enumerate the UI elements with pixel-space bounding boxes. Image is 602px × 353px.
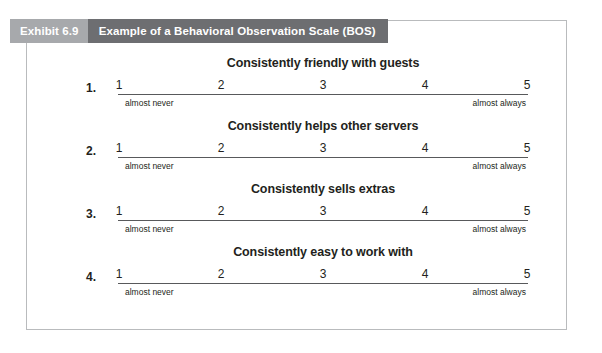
scale-point-group: 1 2 3 4 5 [118,141,528,157]
scale-point[interactable]: 3 [309,267,337,281]
scale-anchor-low: almost never [125,98,174,108]
scale-point[interactable]: 4 [411,141,439,155]
scale-point[interactable]: 3 [309,78,337,92]
exhibit-title: Example of a Behavioral Observation Scal… [88,19,388,43]
scale-item: Consistently helps other servers 2. 1 2 … [0,119,602,182]
exhibit-number-label: Exhibit 6.9 [10,19,88,43]
scale-line [118,220,528,221]
scale-anchor-high: almost always [473,98,526,108]
scale-point[interactable]: 2 [207,78,235,92]
scale-point[interactable]: 1 [105,267,133,281]
scale-point-group: 1 2 3 4 5 [118,78,528,94]
scale-anchors: almost never almost always [118,161,528,171]
scale-point[interactable]: 5 [513,267,541,281]
scale-anchor-low: almost never [125,161,174,171]
scale-row: 1 2 3 4 5 almost never almost always [118,141,528,171]
scale-item: Consistently sells extras 3. 1 2 3 4 5 a… [0,182,602,245]
scale-anchor-high: almost always [473,224,526,234]
scale-line [118,94,528,95]
scale-item-heading: Consistently friendly with guests [118,56,528,70]
scale-point-group: 1 2 3 4 5 [118,267,528,283]
scale-item-heading: Consistently sells extras [118,182,528,196]
scale-point[interactable]: 1 [105,78,133,92]
scale-point[interactable]: 5 [513,204,541,218]
scale-row: 1 2 3 4 5 almost never almost always [118,78,528,108]
scale-item-list: Consistently friendly with guests 1. 1 2… [0,56,602,308]
scale-item: Consistently friendly with guests 1. 1 2… [0,56,602,119]
scale-row: 1 2 3 4 5 almost never almost always [118,267,528,297]
scale-point[interactable]: 3 [309,141,337,155]
scale-item-number: 1. [72,81,96,95]
scale-line [118,157,528,158]
scale-anchor-high: almost always [473,161,526,171]
scale-anchor-low: almost never [125,287,174,297]
scale-item-heading: Consistently easy to work with [118,245,528,259]
scale-item-number: 4. [72,270,96,284]
scale-point[interactable]: 1 [105,204,133,218]
scale-item-heading: Consistently helps other servers [118,119,528,133]
scale-point-group: 1 2 3 4 5 [118,204,528,220]
scale-anchor-high: almost always [473,287,526,297]
scale-item: Consistently easy to work with 4. 1 2 3 … [0,245,602,308]
scale-point[interactable]: 4 [411,78,439,92]
scale-point[interactable]: 2 [207,204,235,218]
scale-point[interactable]: 4 [411,267,439,281]
scale-anchors: almost never almost always [118,287,528,297]
scale-row: 1 2 3 4 5 almost never almost always [118,204,528,234]
exhibit-header: Exhibit 6.9 Example of a Behavioral Obse… [10,19,388,43]
scale-anchor-low: almost never [125,224,174,234]
scale-point[interactable]: 3 [309,204,337,218]
scale-anchors: almost never almost always [118,224,528,234]
scale-point[interactable]: 5 [513,141,541,155]
scale-line [118,283,528,284]
scale-item-number: 2. [72,144,96,158]
scale-point[interactable]: 4 [411,204,439,218]
scale-point[interactable]: 2 [207,267,235,281]
scale-point[interactable]: 2 [207,141,235,155]
scale-point[interactable]: 1 [105,141,133,155]
scale-point[interactable]: 5 [513,78,541,92]
scale-anchors: almost never almost always [118,98,528,108]
scale-item-number: 3. [72,207,96,221]
